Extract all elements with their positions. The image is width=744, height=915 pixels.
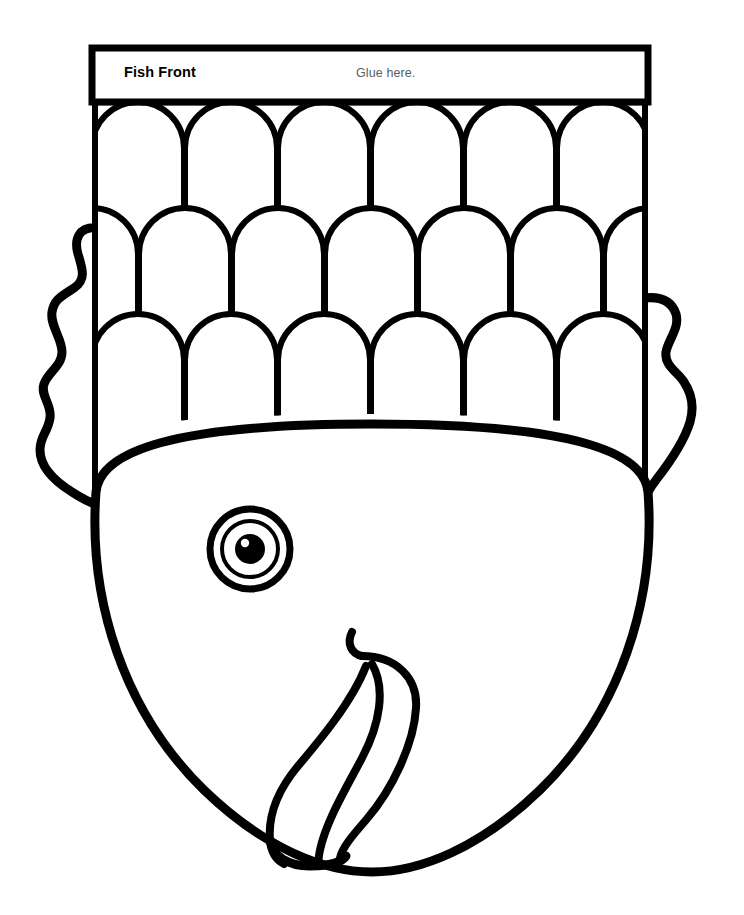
page-canvas: Fish Front Glue here. xyxy=(0,0,744,915)
fish-front-template-artwork xyxy=(0,0,744,915)
arch-scale-icon xyxy=(92,314,184,424)
arch-scale-icon xyxy=(557,102,649,212)
arch-scale-icon xyxy=(464,314,556,424)
arch-scale-icon xyxy=(557,314,649,424)
arch-scale-icon xyxy=(278,314,370,424)
arch-scale-icon xyxy=(371,314,463,424)
arch-scale-icon xyxy=(278,102,370,212)
arch-scale-icon xyxy=(464,102,556,212)
eye-icon xyxy=(210,509,290,589)
arch-scale-icon xyxy=(232,208,324,318)
glue-header-box xyxy=(92,48,648,104)
glue-box-outline xyxy=(92,48,648,102)
arch-scale-icon xyxy=(325,208,417,318)
arch-scale-icon xyxy=(185,102,277,212)
arch-scale-icon xyxy=(511,208,603,318)
arch-scale-icon xyxy=(185,314,277,424)
arch-scale-icon xyxy=(418,208,510,318)
arch-scale-icon xyxy=(139,208,231,318)
arch-scale-icon xyxy=(371,102,463,212)
arch-scale-icon xyxy=(92,102,184,212)
